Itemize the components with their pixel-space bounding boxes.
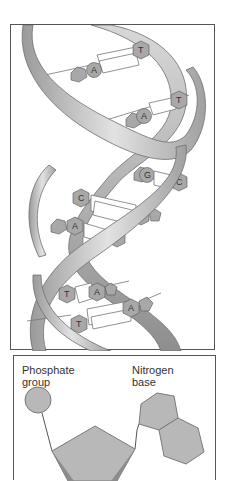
dna-helix-panel: A T A T G C C bbox=[10, 24, 215, 350]
nucleotide-panel: Phosphate group Nitrogen base bbox=[13, 355, 216, 480]
base-letter: A bbox=[91, 65, 97, 75]
base-letter: C bbox=[78, 193, 85, 203]
base-letter: T bbox=[138, 45, 144, 55]
base-letter: A bbox=[72, 221, 78, 231]
base-letter: T bbox=[76, 319, 82, 329]
base-letter: A bbox=[141, 111, 147, 121]
base-letter: T bbox=[176, 95, 182, 105]
nucleotide-illustration bbox=[14, 356, 217, 481]
base-letter: A bbox=[94, 287, 100, 297]
dna-helix-illustration: A T A T G C C bbox=[11, 25, 216, 351]
base-letter: G bbox=[144, 170, 151, 180]
base-bond bbox=[135, 424, 139, 449]
front-strand-left bbox=[29, 165, 56, 257]
base-letter: T bbox=[64, 289, 70, 299]
base-letter: A bbox=[128, 303, 134, 313]
phosphate-bond bbox=[42, 413, 52, 451]
base-pair-1: A T bbox=[36, 41, 149, 82]
phosphate-circle bbox=[25, 387, 51, 413]
